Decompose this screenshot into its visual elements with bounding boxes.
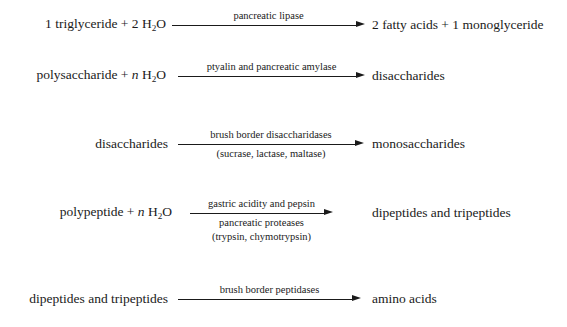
- product-label: monosaccharides: [372, 136, 465, 152]
- arrow-head-icon: [356, 72, 365, 78]
- arrow-head-icon: [356, 21, 365, 27]
- arrow-head-icon: [352, 295, 361, 301]
- enzyme-label-line: (trypsin, chymotrypsin): [190, 230, 333, 244]
- enzyme-label-below: pancreatic proteases (trypsin, chymotryp…: [190, 216, 333, 243]
- enzyme-label-above: brush border peptidases: [178, 283, 361, 296]
- enzyme-label-above: pancreatic lipase: [172, 9, 365, 22]
- reactant-label: polypeptide + n H2O: [60, 204, 172, 221]
- stoichiometric-coefficient: n: [138, 204, 145, 219]
- enzyme-label-line: (sucrase, lactase, maltase): [178, 147, 364, 161]
- arrow-shaft: [178, 144, 355, 145]
- reactant-label: disaccharides: [95, 136, 168, 152]
- enzyme-label-above: brush border disaccharidases: [178, 128, 364, 141]
- product-label: amino acids: [372, 291, 437, 307]
- arrow-shaft: [178, 76, 356, 77]
- reaction-diagram: 1 triglyceride + 2 H2O pancreatic lipase…: [0, 0, 567, 327]
- product-label: dipeptides and tripeptides: [372, 205, 511, 221]
- arrow-shaft: [172, 25, 356, 26]
- reactant-label: 1 triglyceride + 2 H2O: [45, 16, 166, 33]
- arrow-shaft: [178, 299, 352, 300]
- reactant-label: polysaccharide + n H2O: [36, 67, 166, 84]
- product-label: disaccharides: [372, 68, 445, 84]
- arrow-head-icon: [355, 140, 364, 146]
- enzyme-label-line: pancreatic proteases: [190, 216, 333, 230]
- enzyme-label-above: ptyalin and pancreatic amylase: [178, 60, 365, 73]
- enzyme-label-below: (sucrase, lactase, maltase): [178, 147, 364, 161]
- arrow-head-icon: [324, 209, 333, 215]
- enzyme-label-above: gastric acidity and pepsin: [190, 197, 333, 210]
- reactant-label: dipeptides and tripeptides: [29, 291, 168, 307]
- product-label: 2 fatty acids + 1 monoglyceride: [372, 17, 543, 33]
- arrow-shaft: [190, 213, 324, 214]
